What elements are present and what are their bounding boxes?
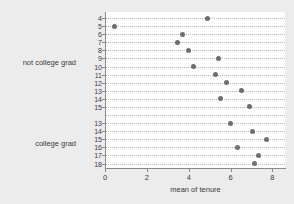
x-axis-title: mean of tenure: [105, 185, 286, 194]
data-point: [228, 121, 233, 126]
y-tick-mark: [102, 75, 105, 76]
gridline: [105, 26, 285, 27]
data-point: [175, 40, 180, 45]
gridline: [105, 139, 285, 140]
data-point: [213, 72, 218, 77]
y-tick-label: 11: [78, 71, 102, 78]
data-point: [256, 153, 261, 158]
x-tick-label: 4: [179, 173, 199, 182]
gridline: [105, 91, 285, 92]
x-tick-mark: [189, 169, 190, 172]
plot-panel: [105, 12, 285, 168]
y-tick-label: 5: [78, 23, 102, 30]
y-tick-mark: [102, 147, 105, 148]
dot-plot-figure: 456789101112131415131415161718 02468 mea…: [0, 0, 294, 204]
y-tick-mark: [102, 83, 105, 84]
group-label-college-grad: college grad: [0, 139, 76, 148]
data-point: [247, 104, 252, 109]
x-tick-mark: [147, 169, 148, 172]
x-axis-tick-labels: 02468: [105, 169, 286, 183]
x-tick-mark: [272, 169, 273, 172]
y-tick-mark: [102, 123, 105, 124]
y-tick-mark: [102, 18, 105, 19]
y-tick-label: 8: [78, 47, 102, 54]
y-tick-mark: [102, 50, 105, 51]
y-tick-mark: [102, 107, 105, 108]
data-point: [252, 161, 257, 166]
gridline: [105, 75, 285, 76]
x-tick-mark: [231, 169, 232, 172]
gridline: [105, 58, 285, 59]
y-axis-line: [105, 12, 106, 169]
y-tick-label: 10: [78, 63, 102, 70]
y-tick-label: 15: [78, 136, 102, 143]
gridline: [105, 107, 285, 108]
y-axis-tick-labels: 456789101112131415131415161718: [78, 12, 102, 168]
gridline: [105, 131, 285, 132]
y-tick-label: 14: [78, 128, 102, 135]
y-tick-label: 12: [78, 79, 102, 86]
y-tick-label: 14: [78, 95, 102, 102]
gridline: [105, 164, 285, 165]
y-tick-mark: [102, 58, 105, 59]
data-point: [191, 64, 196, 69]
gridline: [105, 42, 285, 43]
y-tick-mark: [102, 164, 105, 165]
y-tick-label: 7: [78, 39, 102, 46]
data-point: [112, 24, 117, 29]
gridline: [105, 99, 285, 100]
y-tick-mark: [102, 131, 105, 132]
y-tick-mark: [102, 67, 105, 68]
y-tick-mark: [102, 99, 105, 100]
data-point: [235, 145, 240, 150]
gridline: [105, 83, 285, 84]
x-tick-label: 8: [262, 173, 282, 182]
y-tick-mark: [102, 139, 105, 140]
y-tick-label: 4: [78, 15, 102, 22]
x-tick-label: 2: [137, 173, 157, 182]
gridline: [105, 115, 285, 116]
data-point: [250, 129, 255, 134]
y-tick-mark: [102, 26, 105, 27]
gridline: [105, 18, 285, 19]
data-point: [186, 48, 191, 53]
data-point: [224, 80, 229, 85]
data-point: [205, 16, 210, 21]
y-tick-mark: [102, 155, 105, 156]
x-tick-mark: [105, 169, 106, 172]
y-tick-label: 13: [78, 120, 102, 127]
y-tick-label: 6: [78, 31, 102, 38]
gridline: [105, 123, 285, 124]
y-tick-mark: [102, 34, 105, 35]
data-point: [264, 137, 269, 142]
x-tick-label: 6: [221, 173, 241, 182]
y-tick-label: 15: [78, 103, 102, 110]
y-tick-mark: [102, 42, 105, 43]
group-label-not-college-grad: not college grad: [0, 58, 76, 67]
y-tick-label: 17: [78, 152, 102, 159]
group-labels: not college gradcollege grad: [0, 0, 76, 204]
gridline: [105, 34, 285, 35]
y-tick-label: 13: [78, 87, 102, 94]
x-tick-label: 0: [95, 173, 115, 182]
y-tick-label: 18: [78, 160, 102, 167]
y-tick-label: 16: [78, 144, 102, 151]
data-point: [180, 32, 185, 37]
gridline: [105, 147, 285, 148]
data-point: [216, 56, 221, 61]
data-point: [218, 96, 223, 101]
y-tick-mark: [102, 91, 105, 92]
gridline: [105, 50, 285, 51]
y-tick-label: 9: [78, 55, 102, 62]
data-point: [239, 88, 244, 93]
